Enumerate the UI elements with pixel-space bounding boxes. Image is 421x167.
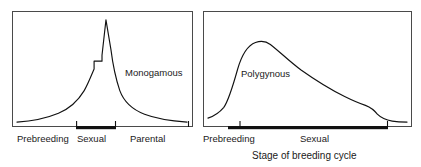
breeding-cycle-figure: Monogamous Polygynous Prebreeding Sexual… xyxy=(0,0,421,167)
axis-label-polygynous-sexual: Sexual xyxy=(300,133,329,144)
panel-label-polygynous: Polygynous xyxy=(241,68,290,79)
axis-label-monogamous-prebreeding: Prebreeding xyxy=(17,133,69,144)
axis-title: Stage of breeding cycle xyxy=(252,150,357,162)
chart-panel-polygynous: Polygynous xyxy=(203,11,412,127)
chart-panel-monogamous: Monogamous xyxy=(12,11,193,127)
axis-label-monogamous-sexual: Sexual xyxy=(77,133,106,144)
axis-label-monogamous-parental: Parental xyxy=(130,133,165,144)
axis-label-polygynous-prebreeding: Prebreeding xyxy=(203,133,255,144)
polygynous-curve xyxy=(204,12,411,126)
panel-label-monogamous: Monogamous xyxy=(125,67,183,78)
